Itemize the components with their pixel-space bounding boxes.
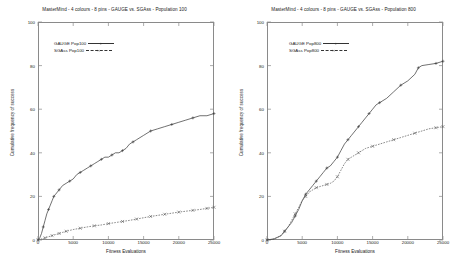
x-tick-label: 15000 [137, 240, 149, 245]
y-tick-label: 20 [30, 194, 35, 199]
plot-area-right: GAUGE Pop800SGAss Pop800 [267, 22, 443, 240]
x-tick-label: 0 [266, 240, 268, 245]
y-tick-label: 0 [33, 238, 35, 243]
series-line [267, 127, 443, 240]
series-line [267, 61, 443, 240]
legend-key [323, 40, 349, 47]
y-tick-label: 80 [30, 63, 35, 68]
legend-entry: SGAss Pop100 [54, 47, 114, 54]
y-tick-label: 0 [262, 238, 264, 243]
y-axis-label-right: Cumulative frequency of success [239, 63, 244, 183]
legend-label: GAUGE Pop800 [289, 41, 323, 46]
chart-title-right: MasterMind - 4 colours - 8 pins - GAUGE … [229, 7, 458, 12]
legend-label: SGAss Pop800 [289, 48, 321, 53]
chart-panel-right: MasterMind - 4 colours - 8 pins - GAUGE … [229, 0, 458, 276]
x-tick-label: 10000 [102, 240, 114, 245]
plot-canvas-left [38, 22, 214, 240]
legend-entry: GAUGE Pop800 [289, 40, 349, 47]
legend-key [86, 47, 112, 54]
y-tick-label: 60 [30, 107, 35, 112]
chart-panel-left: MasterMind - 4 colours - 8 pins - GAUGE … [0, 0, 229, 276]
series-gauge [37, 112, 216, 241]
y-tick-label: 40 [30, 150, 35, 155]
x-tick-label: 20000 [402, 240, 414, 245]
legend-key [88, 40, 114, 47]
series-sgass [37, 206, 216, 242]
y-tick-label: 40 [259, 150, 264, 155]
y-tick-label: 60 [259, 107, 264, 112]
legend-left: GAUGE Pop100SGAss Pop100 [54, 40, 114, 54]
legend-key [321, 47, 347, 54]
plot-canvas-right [267, 22, 443, 240]
x-tick-label: 25000 [208, 240, 220, 245]
legend-label: SGAss Pop100 [54, 48, 86, 53]
series-line [38, 207, 214, 240]
x-axis-label-left: Fitness Evaluations [38, 249, 214, 254]
y-axis-ticks-left: 020406080100 [18, 22, 35, 240]
legend-entry: SGAss Pop800 [289, 47, 349, 54]
y-axis-ticks-right: 020406080100 [247, 22, 264, 240]
x-tick-label: 15000 [366, 240, 378, 245]
y-tick-label: 100 [28, 20, 35, 25]
legend-label: GAUGE Pop100 [54, 41, 88, 46]
y-tick-label: 80 [259, 63, 264, 68]
plot-area-left: GAUGE Pop100SGAss Pop100 [38, 22, 214, 240]
x-tick-label: 20000 [173, 240, 185, 245]
legend-entry: GAUGE Pop100 [54, 40, 114, 47]
x-tick-label: 0 [37, 240, 39, 245]
x-axis-label-right: Fitness Evaluations [267, 249, 443, 254]
y-axis-label-left: Cumulative frequency of success [10, 63, 15, 183]
series-sgass [266, 125, 445, 241]
x-tick-label: 25000 [437, 240, 449, 245]
legend-right: GAUGE Pop800SGAss Pop800 [289, 40, 349, 54]
series-gauge [266, 60, 445, 242]
y-tick-label: 100 [257, 20, 264, 25]
x-tick-label: 5000 [68, 240, 78, 245]
y-tick-label: 20 [259, 194, 264, 199]
chart-page: MasterMind - 4 colours - 8 pins - GAUGE … [0, 0, 458, 276]
chart-title-left: MasterMind - 4 colours - 8 pins - GAUGE … [0, 7, 229, 12]
x-tick-label: 10000 [331, 240, 343, 245]
x-tick-label: 5000 [297, 240, 307, 245]
